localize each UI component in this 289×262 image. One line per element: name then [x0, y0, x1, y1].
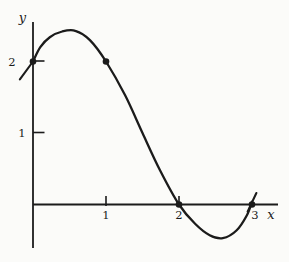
data-point-dot — [103, 58, 110, 65]
y-tick-label: 1 — [18, 126, 25, 140]
x-tick-label: 3 — [251, 208, 258, 222]
x-axis-label: x — [267, 207, 275, 222]
function-curve — [33, 30, 252, 238]
tangent-mark — [20, 62, 33, 80]
plot-canvas: 12312 y x — [0, 0, 289, 262]
y-tick-label: 2 — [8, 55, 15, 69]
data-point-dot — [30, 58, 37, 65]
x-tick-label: 1 — [102, 208, 109, 222]
function-graph-figure: 12312 y x — [0, 0, 289, 262]
y-axis-label: y — [18, 10, 27, 25]
data-point-dot — [249, 201, 256, 208]
generated-plot-elements: 12312 — [8, 22, 278, 248]
data-point-dot — [176, 201, 183, 208]
